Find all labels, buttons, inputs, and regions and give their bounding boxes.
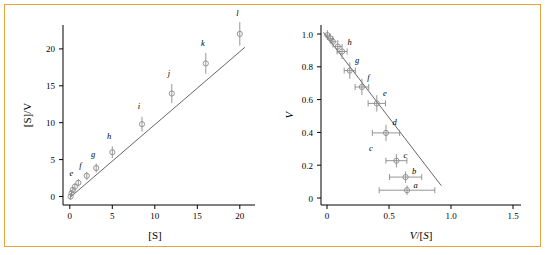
panel-a-yticks bbox=[59, 49, 63, 197]
panel-b-eadie-hofstee-plot: 0 0.5 1.0 1.5 0 0.2 0.4 0.6 0.8 1.0 V/[S… bbox=[273, 5, 542, 248]
panel-a-data-series bbox=[68, 22, 242, 200]
panel-a-svg: 0 5 10 15 20 0 5 10 15 20 [S] [S]/V bbox=[5, 5, 273, 248]
panel-b-axes bbox=[321, 25, 521, 205]
panel-b-ytick-4: 0.8 bbox=[302, 62, 314, 72]
panel-a-point-labels: e f g h i j k l bbox=[70, 8, 240, 179]
panel-a-xtick-1: 5 bbox=[110, 211, 115, 221]
panel-b-xtick-1: 0.5 bbox=[383, 211, 395, 221]
panel-b-xtick-0: 0 bbox=[325, 211, 330, 221]
panel-a-label-e: e bbox=[70, 168, 74, 178]
panel-b-point-labels: a b c d e f g h c bbox=[347, 37, 417, 191]
panel-b-yaxis-label: V bbox=[283, 110, 295, 118]
panel-b-ytick-0: 0 bbox=[309, 194, 314, 204]
panel-a-xaxis-label: [S] bbox=[148, 229, 161, 241]
panel-b-label-e: e bbox=[383, 88, 387, 98]
panel-a-label-f: f bbox=[79, 160, 83, 170]
panel-a-hanes-woolf-plot: 0 5 10 15 20 0 5 10 15 20 [S] [S]/V bbox=[5, 5, 273, 248]
panel-b-label-a: a bbox=[413, 180, 417, 190]
panel-b-xaxis-label: V/[S] bbox=[410, 229, 433, 241]
panel-a-xtick-4: 20 bbox=[235, 211, 245, 221]
panel-a-ytick-3: 15 bbox=[46, 81, 56, 91]
panel-a-label-i: i bbox=[138, 101, 141, 111]
panel-a-label-g: g bbox=[91, 149, 95, 159]
panel-b-fit-line bbox=[324, 32, 442, 185]
panel-b-xticks bbox=[327, 205, 513, 209]
panel-a-yaxis-label: [S]/V bbox=[21, 103, 33, 128]
panel-b-yticks bbox=[317, 34, 321, 198]
panel-b-xtick-2: 1.0 bbox=[445, 211, 457, 221]
panel-b-label-c: c bbox=[404, 150, 408, 160]
panel-a-ytick-1: 5 bbox=[51, 155, 56, 165]
figure-frame: 0 5 10 15 20 0 5 10 15 20 [S] [S]/V bbox=[4, 4, 541, 247]
panel-a-label-j: j bbox=[167, 68, 171, 78]
panel-a-axes bbox=[63, 25, 255, 205]
panel-b-ytick-3: 0.6 bbox=[302, 95, 314, 105]
panel-b-label-g: g bbox=[355, 55, 359, 65]
panel-a-xticks bbox=[70, 205, 240, 209]
panel-b-ytick-1: 0.2 bbox=[302, 161, 313, 171]
panel-a-xtick-3: 15 bbox=[193, 211, 203, 221]
panel-a-xtick-0: 0 bbox=[68, 211, 73, 221]
panel-a-xtick-2: 10 bbox=[150, 211, 160, 221]
panel-a-ytick-4: 20 bbox=[46, 44, 56, 54]
panel-b-label-c-secondary: c bbox=[369, 143, 373, 153]
panel-b-label-h: h bbox=[347, 37, 351, 47]
panel-b-label-b: b bbox=[412, 166, 416, 176]
panel-a-fit-line bbox=[70, 47, 245, 197]
panel-b-label-f: f bbox=[367, 72, 371, 82]
panel-b-label-d: d bbox=[392, 117, 397, 127]
panel-b-svg: 0 0.5 1.0 1.5 0 0.2 0.4 0.6 0.8 1.0 V/[S… bbox=[273, 5, 542, 248]
panel-a-label-l: l bbox=[236, 8, 239, 18]
panel-a-label-h: h bbox=[107, 131, 111, 141]
panel-b-ytick-2: 0.4 bbox=[302, 128, 314, 138]
panel-b-xtick-3: 1.5 bbox=[507, 211, 519, 221]
panel-a-ytick-2: 10 bbox=[46, 118, 56, 128]
panel-a-label-k: k bbox=[201, 38, 205, 48]
panel-a-ytick-0: 0 bbox=[51, 192, 56, 202]
panel-b-ytick-5: 1.0 bbox=[302, 30, 314, 40]
